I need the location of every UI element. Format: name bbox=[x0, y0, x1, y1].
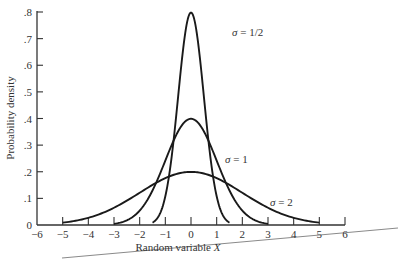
label-sigma-half: σ = 1/2 bbox=[232, 26, 263, 38]
label-sigma-one: σ = 1 bbox=[225, 153, 248, 165]
x-tick-label: −2 bbox=[134, 228, 146, 240]
x-tick-label: −6 bbox=[31, 228, 43, 240]
x-tick-label: 6 bbox=[342, 228, 348, 240]
y-axis-ticks: 0.1.2.3.4.5.6.7.8 bbox=[24, 6, 43, 231]
label-sigma-two: σ = 2 bbox=[270, 196, 293, 208]
sigma-two-value: = 2 bbox=[275, 196, 292, 208]
x-tick-label: 4 bbox=[291, 228, 297, 240]
y-tick-label: .5 bbox=[24, 86, 33, 98]
x-tick-label: −3 bbox=[108, 228, 120, 240]
x-axis-variable: X bbox=[213, 241, 222, 253]
sigma-half-value: = 1/2 bbox=[237, 26, 263, 38]
x-tick-label: 1 bbox=[214, 228, 220, 240]
x-tick-label: 5 bbox=[317, 228, 323, 240]
x-tick-label: 2 bbox=[240, 228, 246, 240]
x-tick-label: −5 bbox=[57, 228, 69, 240]
y-tick-label: .6 bbox=[24, 59, 33, 71]
density-curves bbox=[63, 13, 320, 224]
sigma-one-value: = 1 bbox=[230, 153, 247, 165]
x-tick-label: 3 bbox=[265, 228, 271, 240]
y-tick-label: .1 bbox=[24, 192, 32, 204]
y-tick-label: .8 bbox=[24, 6, 33, 18]
y-tick-label: .3 bbox=[24, 139, 33, 151]
normal-distribution-chart: 0.1.2.3.4.5.6.7.8 −6−5−4−3−2−10123456 Pr… bbox=[0, 0, 398, 261]
x-tick-label: −1 bbox=[159, 228, 171, 240]
x-tick-label: 0 bbox=[188, 228, 194, 240]
x-axis-title-text: Random variable bbox=[136, 241, 214, 253]
x-axis-title: Random variable X bbox=[136, 241, 222, 253]
y-tick-label: .7 bbox=[24, 33, 33, 45]
y-tick-label: .2 bbox=[24, 166, 32, 178]
y-axis-title: Probability density bbox=[4, 76, 16, 160]
curve-sigma-0_5 bbox=[153, 13, 230, 223]
x-tick-label: −4 bbox=[82, 228, 94, 240]
y-tick-label: .4 bbox=[24, 113, 33, 125]
